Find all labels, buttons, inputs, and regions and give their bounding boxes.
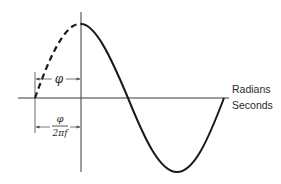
phase-dimension: φ (36, 72, 80, 86)
x-axis-label-radians: Radians (232, 83, 271, 95)
time-shift-dimension: φ 2πf (36, 113, 80, 138)
time-shift-numerator: φ (56, 113, 63, 124)
time-shift-denominator: 2πf (52, 128, 70, 138)
x-axis-label-seconds: Seconds (232, 99, 273, 111)
sine-phase-diagram: φ φ 2πf Radians Seconds (0, 0, 281, 184)
dashed-curve (35, 24, 81, 98)
phase-label: φ (55, 72, 64, 86)
